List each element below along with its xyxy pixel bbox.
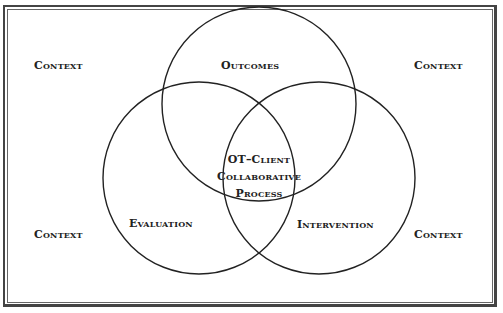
intervention-label: Intervention bbox=[297, 216, 374, 233]
context-label-top-left: Context bbox=[34, 57, 83, 74]
context-label-bottom-right: Context bbox=[414, 226, 463, 243]
center-label-line-2: Collaborative bbox=[209, 168, 309, 185]
context-label-top-right: Context bbox=[414, 57, 463, 74]
evaluation-label: Evaluation bbox=[129, 215, 193, 232]
center-label-line-1: OT–Client bbox=[209, 151, 309, 168]
outcomes-label: Outcomes bbox=[221, 57, 279, 74]
center-label: OT–Client Collaborative Process bbox=[209, 151, 309, 202]
center-label-line-3: Process bbox=[209, 185, 309, 202]
context-label-bottom-left: Context bbox=[34, 226, 83, 243]
